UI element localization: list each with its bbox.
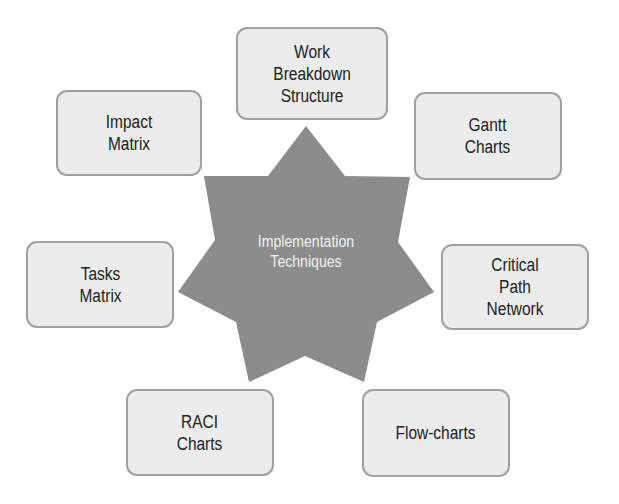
node-gantt-charts: Gantt Charts: [414, 92, 562, 180]
node-label: RACI Charts: [177, 411, 223, 455]
node-tasks-matrix: Tasks Matrix: [26, 241, 174, 328]
node-label: Tasks Matrix: [79, 263, 121, 307]
node-critical-path-network: Critical Path Network: [441, 244, 589, 330]
center-label-line1: Implementation: [218, 232, 394, 252]
center-label-line2: Techniques: [218, 252, 394, 272]
node-work-breakdown-structure: Work Breakdown Structure: [236, 27, 388, 120]
node-impact-matrix: Impact Matrix: [56, 90, 202, 176]
node-label: Gantt Charts: [465, 114, 511, 158]
node-label: Critical Path Network: [487, 254, 544, 320]
node-label: Impact Matrix: [106, 111, 152, 155]
node-raci-charts: RACI Charts: [126, 389, 274, 476]
node-flow-charts: Flow-charts: [362, 389, 510, 477]
center-label: Implementation Techniques: [218, 232, 394, 272]
node-label: Flow-charts: [396, 422, 476, 444]
node-label: Work Breakdown Structure: [273, 41, 350, 107]
